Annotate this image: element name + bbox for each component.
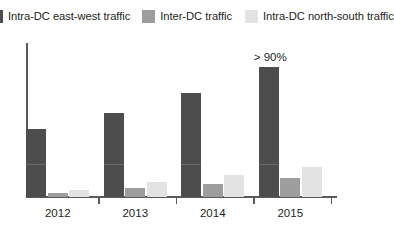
x-axis-label: 2012 (14, 206, 101, 220)
bar (259, 67, 279, 197)
chart-legend: Intra-DC east-west traffic Inter-DC traf… (0, 7, 369, 25)
bar (302, 167, 322, 197)
legend-item-intra-dc-north-south: Intra-DC north-south traffic (245, 7, 394, 25)
x-axis-label: 2013 (92, 206, 179, 220)
bar (181, 93, 201, 197)
x-axis-label: 2014 (169, 206, 256, 220)
bar (203, 184, 223, 197)
x-axis-tick (331, 197, 333, 204)
bar-group (181, 30, 244, 197)
x-axis-label: 2015 (247, 206, 334, 220)
bar (147, 182, 167, 197)
legend-item-inter-dc: Inter-DC traffic (142, 7, 232, 25)
legend-swatch-icon (245, 10, 258, 23)
bar (69, 190, 89, 197)
legend-swatch-icon (142, 10, 155, 23)
bar-group: > 90% (259, 30, 322, 197)
bar (280, 178, 300, 197)
bar-group (104, 30, 167, 197)
x-axis-tick (98, 197, 100, 204)
bar (26, 129, 46, 197)
bar (224, 175, 244, 197)
bar-groups: > 90% (27, 30, 337, 197)
x-axis-tick (176, 197, 178, 204)
bar (125, 188, 145, 197)
bar (48, 193, 68, 197)
x-axis-tick (253, 197, 255, 204)
legend-item-label: Intra-DC east-west traffic (3, 7, 130, 25)
bar-group (26, 30, 89, 197)
legend-item-label: Intra-DC north-south traffic (258, 7, 394, 25)
bar-annotation: > 90% (254, 51, 287, 64)
bar (104, 113, 124, 197)
legend-item-label: Inter-DC traffic (155, 7, 232, 25)
bar-chart-plot: > 90% 2012201320142015 (0, 30, 369, 230)
legend-item-intra-dc-east-west: Intra-DC east-west traffic (0, 7, 130, 25)
